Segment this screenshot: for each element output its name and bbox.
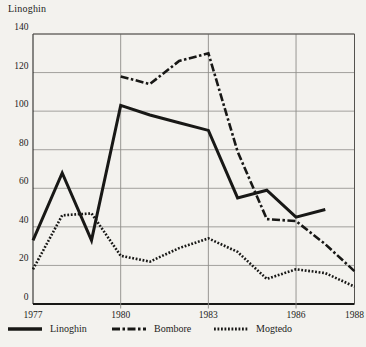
legend-item-bombore: Bombore — [112, 323, 191, 334]
legend-item-linoghin: Linoghin — [8, 323, 87, 334]
y-tick-label: 80 — [19, 138, 29, 148]
x-tick-label: 1980 — [111, 310, 130, 320]
y-tick-label: 120 — [14, 61, 29, 71]
y-tick-label: 60 — [19, 176, 29, 186]
mogtedo-line-swatch-icon — [214, 325, 248, 333]
legend-label: Mogtedo — [256, 323, 292, 334]
x-tick-label: 1983 — [199, 310, 218, 320]
y-tick-label: 20 — [19, 253, 29, 263]
x-tick-label: 1986 — [287, 310, 306, 320]
x-tick-label: 1988 — [345, 310, 364, 320]
linoghin-line-swatch-icon — [8, 325, 42, 333]
legend-label: Bombore — [154, 323, 191, 334]
y-tick-label: 140 — [14, 22, 29, 32]
chart-legend: LinoghinBomboreMogtedo — [0, 323, 366, 345]
legend-label: Linoghin — [50, 323, 87, 334]
y-tick-label: 40 — [19, 215, 29, 225]
bombore-line-swatch-icon — [112, 325, 146, 333]
y-tick-label: 100 — [14, 99, 29, 109]
y-tick-label: 0 — [24, 292, 29, 302]
linoghin-series-line — [33, 105, 325, 240]
mogtedo-series-line — [33, 213, 355, 286]
legend-item-mogtedo: Mogtedo — [214, 323, 292, 334]
x-tick-label: 1977 — [24, 310, 43, 320]
bombore-series-line — [121, 53, 355, 271]
line-chart-plot: 02040608010012014019771980198319861988 — [0, 0, 366, 322]
